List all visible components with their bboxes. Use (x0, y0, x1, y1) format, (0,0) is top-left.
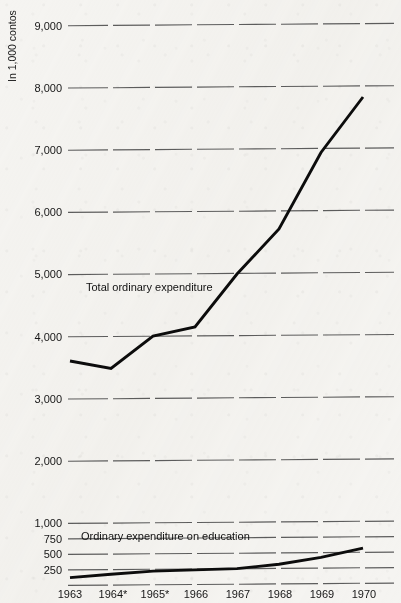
gridline-6000 (68, 210, 394, 212)
y-tick-8000: 8,000 (34, 82, 62, 94)
x-tick-1967: 1967 (226, 588, 250, 600)
gridline-baseline (68, 583, 394, 585)
y-tick-3000: 3,000 (34, 393, 62, 405)
y-tick-1000: 1,000 (34, 517, 62, 529)
line-chart: In 1,000 contos (0, 0, 401, 603)
y-tick-500: 500 (44, 548, 62, 560)
x-tick-1970: 1970 (352, 588, 376, 600)
gridline-3000 (68, 397, 394, 399)
series-line-total-ordinary-expenditure (70, 97, 363, 369)
gridlines-major (68, 23, 394, 523)
y-tick-5000: 5,000 (34, 268, 62, 280)
gridline-7000 (68, 148, 394, 150)
y-axis-title: In 1,000 contos (6, 10, 18, 82)
gridline-4000 (68, 335, 394, 337)
y-tick-250: 250 (44, 564, 62, 576)
y-tick-9000: 9,000 (34, 20, 62, 32)
y-tick-labels: 9,000 8,000 7,000 6,000 5,000 4,000 3,00… (34, 20, 62, 576)
chart-figure: In 1,000 contos (0, 0, 401, 603)
gridline-5000 (68, 272, 394, 274)
y-tick-6000: 6,000 (34, 206, 62, 218)
gridline-1000 (68, 521, 394, 523)
y-tick-7000: 7,000 (34, 144, 62, 156)
x-tick-1969: 1969 (310, 588, 334, 600)
y-tick-750: 750 (44, 533, 62, 545)
annotation-ordinary-expenditure-education: Ordinary expenditure on education (81, 530, 250, 542)
x-tick-labels: 1963 1964* 1965* 1966 1967 1968 1969 197… (58, 588, 376, 600)
gridline-8000 (68, 86, 394, 88)
gridlines-minor (68, 537, 394, 586)
series-line-ordinary-expenditure-education (70, 548, 363, 578)
x-tick-1964: 1964* (99, 588, 128, 600)
x-tick-1963: 1963 (58, 588, 82, 600)
y-tick-4000: 4,000 (34, 331, 62, 343)
gridline-9000 (68, 23, 394, 25)
y-tick-2000: 2,000 (34, 455, 62, 467)
x-tick-1965: 1965* (141, 588, 170, 600)
x-tick-1966: 1966 (184, 588, 208, 600)
gridline-2000 (68, 459, 394, 461)
annotation-total-ordinary-expenditure: Total ordinary expenditure (86, 281, 213, 293)
x-tick-1968: 1968 (268, 588, 292, 600)
